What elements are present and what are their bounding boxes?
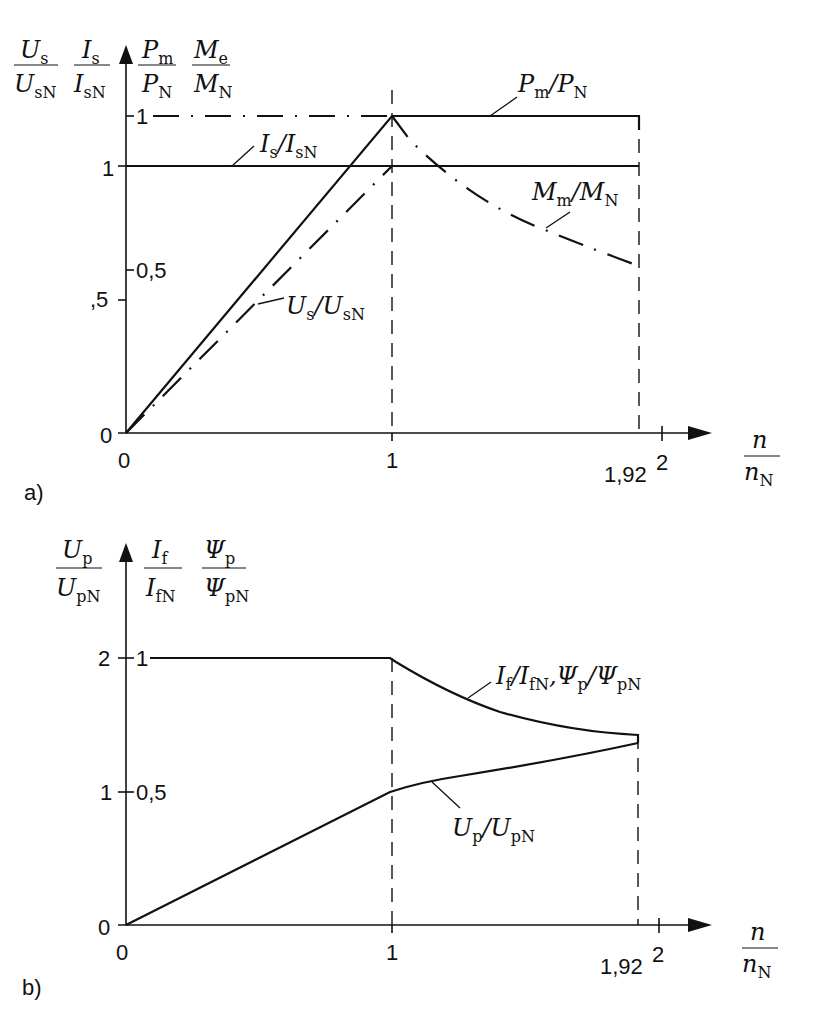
label-pm-pn: Pm/PN [490,70,588,116]
y-tick-2: 2 [98,646,110,671]
label-us-usn: Us/UsN [258,292,365,324]
svg-text:If/IfN,Ψp/ΨpN: If/IfN,Ψp/ΨpN [495,662,641,694]
y-tick-0: 0 [98,915,110,940]
y-axis-label-psi-p: Ψp ΨpN [202,536,249,606]
svg-text:Up/UpN: Up/UpN [452,814,535,846]
y-axis-label-pm-pn: Pm PN [138,36,176,102]
y-axis-arrow-icon [119,543,133,562]
x-axis-label-b: n nN [742,918,778,982]
y-axis-label-if-ifn: If IfN [144,536,182,606]
chart-panel-a: Us UsN Is IsN Pm PN Me MN 0 1 , [14,36,780,505]
chart-panel-b: Up UpN If IfN Ψp ΨpN 2 1 1 0,5 0 0 1 1,9… [22,536,778,1000]
svg-text:nN: nN [744,458,773,490]
y-tick-05: 0,5 [136,780,167,805]
svg-text:Us/UsN: Us/UsN [286,292,365,324]
curve-up-upn [126,743,638,925]
x-axis-label-a: n nN [744,426,780,490]
svg-text:Up: Up [62,536,92,568]
x-tick-1: 1 [386,448,398,473]
panel-label-b: b) [22,975,42,1000]
x-axis-arrow-icon [688,918,712,932]
x-tick-1-92: 1,92 [604,462,647,487]
y-tick-05-left: ,5 [90,287,108,312]
label-mm-mn: Mm/MN [531,178,618,228]
y-tick-1-right: 1 [136,104,148,129]
y-axis-label-up-upn: Up UpN [56,536,102,606]
curve-pm-pn [126,116,639,433]
svg-text:n: n [752,426,767,454]
x-axis-arrow-icon [688,426,712,440]
x-tick-1: 1 [386,940,398,965]
svg-text:Is: Is [81,36,100,68]
svg-text:If: If [151,536,168,568]
svg-text:IsN: IsN [73,70,106,102]
svg-text:Ψp: Ψp [204,536,235,568]
y-tick-1: 1 [100,780,112,805]
y-axis-arrow-icon [119,45,133,64]
x-tick-0: 0 [116,940,128,965]
panel-label-a: a) [24,480,44,505]
x-tick-1-92: 1,92 [600,954,643,979]
svg-text:n: n [750,918,765,946]
y-axis-label-me-mn: Me MN [192,36,233,102]
y-axis-label-us-usn: Us UsN [14,36,58,102]
y-tick-05: 0,5 [136,258,167,283]
svg-text:Me: Me [193,36,228,68]
svg-text:Mm/MN: Mm/MN [531,178,618,210]
svg-text:Us: Us [20,36,48,68]
x-tick-2: 2 [656,450,668,475]
figure: Us UsN Is IsN Pm PN Me MN 0 1 , [0,0,813,1032]
svg-text:Pm: Pm [141,36,173,68]
label-up-upn: Up/UpN [432,782,535,846]
x-tick-2: 2 [652,942,664,967]
svg-text:nN: nN [742,950,771,982]
svg-text:Pm/PN: Pm/PN [517,70,588,102]
svg-text:IfN: IfN [145,574,175,606]
y-tick-1-right: 1 [136,646,148,671]
y-axis-label-is-isn: Is IsN [73,36,110,102]
svg-text:UsN: UsN [14,70,56,102]
label-is-isn: Is/IsN [232,130,318,166]
y-tick-1: 1 [102,156,114,181]
label-if-ifn-psi: If/IfN,Ψp/ΨpN [468,662,641,698]
svg-text:Is/IsN: Is/IsN [259,130,318,162]
svg-text:PN: PN [141,70,172,102]
x-tick-0: 0 [118,448,130,473]
svg-text:UpN: UpN [56,574,100,606]
svg-text:ΨpN: ΨpN [204,574,249,606]
svg-text:MN: MN [193,70,233,102]
y-tick-0: 0 [100,423,112,448]
